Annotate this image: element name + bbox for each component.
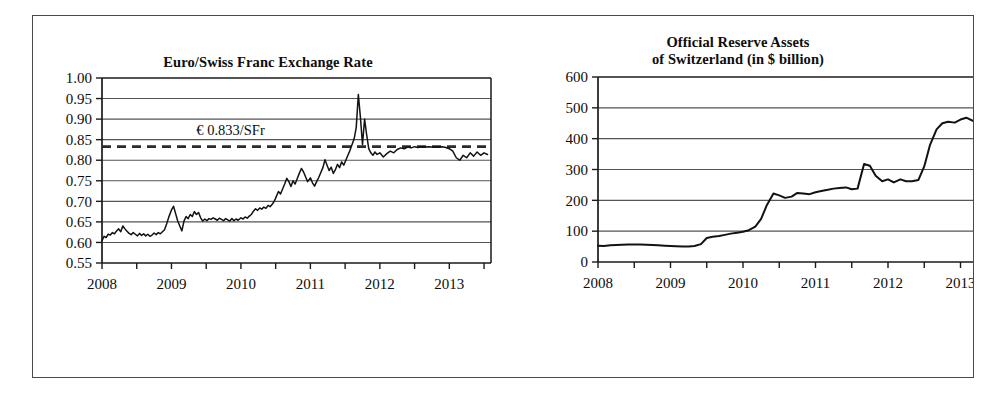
y-tick-label: 0.95 (66, 91, 92, 107)
y-axis-ticks-group: 0100200300400500600 (566, 69, 599, 270)
chart-plot-euro-swiss-franc: 0.550.600.650.700.750.800.850.900.951.00… (33, 16, 503, 379)
x-tick-label: 2008 (583, 275, 613, 291)
x-tick-label: 2010 (226, 276, 256, 292)
y-tick-label: 0.55 (66, 255, 92, 271)
y-axis-ticks-group: 0.550.600.650.700.750.800.850.900.951.00 (66, 70, 102, 271)
y-tick-label: 0.90 (66, 111, 92, 127)
y-tick-label: 100 (566, 223, 589, 239)
x-tick-label: 2012 (873, 275, 903, 291)
chart-panel-official-reserve-assets: Official Reserve Assets of Switzerland (… (503, 16, 973, 379)
x-tick-label: 2013 (434, 276, 464, 292)
y-tick-label: 500 (566, 100, 589, 116)
x-tick-label: 2012 (365, 276, 395, 292)
x-tick-label: 2009 (156, 276, 186, 292)
y-tick-label: 0.60 (66, 235, 92, 251)
y-tick-label: 400 (566, 131, 589, 147)
y-tick-label: 0.80 (66, 152, 92, 168)
y-tick-label: 600 (566, 69, 589, 85)
x-axis-ticks-group: 200820092010201120122013 (583, 262, 973, 291)
gridlines-group (102, 99, 491, 243)
y-tick-label: 1.00 (66, 70, 92, 86)
x-tick-label: 2013 (946, 275, 974, 291)
reference-line-label: € 0.833/SFr (196, 122, 265, 138)
x-axis-ticks-group: 200820092010201120122013 (87, 263, 484, 292)
data-series-line (598, 118, 973, 247)
x-tick-label: 2010 (728, 275, 758, 291)
x-tick-label: 2009 (656, 275, 686, 291)
figure-root: Euro/Swiss Franc Exchange Rate 0.550.600… (0, 0, 992, 398)
x-tick-label: 2008 (87, 276, 117, 292)
figure-outer-border: Euro/Swiss Franc Exchange Rate 0.550.600… (32, 15, 974, 378)
x-tick-label: 2011 (801, 275, 830, 291)
y-tick-label: 0.85 (66, 132, 92, 148)
chart-panel-euro-swiss-franc: Euro/Swiss Franc Exchange Rate 0.550.600… (33, 16, 503, 379)
gridlines-group (598, 108, 973, 231)
plot-frame-group (102, 78, 491, 263)
chart-plot-official-reserve-assets: 0100200300400500600200820092010201120122… (503, 16, 973, 379)
y-tick-label: 200 (566, 193, 589, 209)
y-tick-label: 0.70 (66, 194, 92, 210)
data-series-line (102, 94, 488, 240)
y-tick-label: 0.75 (66, 173, 92, 189)
y-tick-label: 300 (566, 162, 589, 178)
x-tick-label: 2011 (296, 276, 325, 292)
y-tick-label: 0 (581, 254, 589, 270)
y-tick-label: 0.65 (66, 214, 92, 230)
